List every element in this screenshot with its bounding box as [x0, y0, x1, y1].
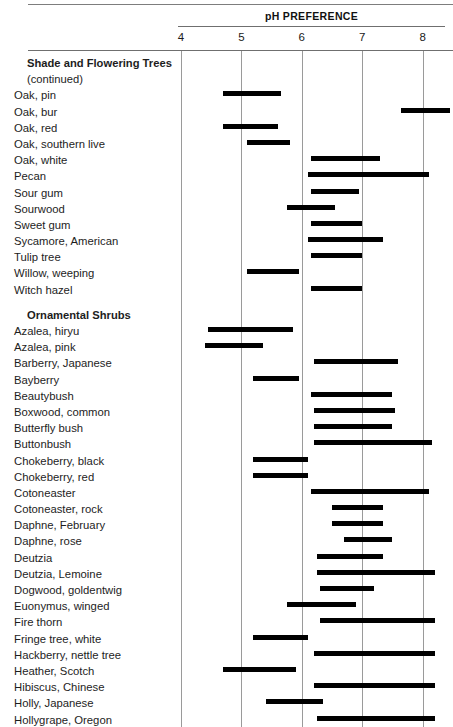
ph-range-bar: [311, 189, 359, 194]
chart-row: Oak, red: [0, 120, 453, 136]
ph-range-bar: [320, 618, 435, 623]
plant-name-label: Boxwood, common: [14, 405, 110, 419]
top-rule: [28, 4, 453, 5]
ph-range-bar: [287, 602, 356, 607]
plant-name-label: Oak, red: [14, 121, 57, 135]
plant-name-label: Cotoneaster: [14, 486, 76, 500]
plant-name-label: Daphne, February: [14, 518, 105, 532]
chart-row: Dogwood, goldentwig: [0, 582, 453, 598]
chart-row: Sour gum: [0, 185, 453, 201]
ph-range-bar: [253, 376, 298, 381]
chart-row: Azalea, pink: [0, 339, 453, 355]
plant-name-label: Azalea, pink: [14, 340, 76, 354]
plant-name-label: Hollygrape, Oregon: [14, 713, 112, 727]
ph-range-bar: [308, 237, 384, 242]
ph-range-bar: [205, 343, 262, 348]
chart-row: Fringe tree, white: [0, 631, 453, 647]
ph-range-bar: [253, 473, 307, 478]
ph-range-bar: [223, 91, 280, 96]
ph-range-bar: [314, 424, 393, 429]
ph-range-bar: [344, 537, 392, 542]
plant-name-label: Holly, Japanese: [14, 696, 94, 710]
ph-range-bar: [223, 124, 277, 129]
ph-range-bar: [287, 205, 335, 210]
ph-range-bar: [320, 586, 374, 591]
x-tick-label-7: 7: [350, 31, 374, 44]
chart-rows: Shade and Flowering Trees(continued)Oak,…: [0, 55, 453, 727]
chart-row: Oak, southern live: [0, 136, 453, 152]
plant-name-label: Oak, southern live: [14, 137, 105, 151]
section-heading-label: Shade and Flowering Trees: [27, 56, 172, 70]
plant-name-label: Cotoneaster, rock: [14, 502, 103, 516]
chart-row: Daphne, February: [0, 517, 453, 533]
x-tick-label-6: 6: [290, 31, 314, 44]
chart-row: Heather, Scotch: [0, 663, 453, 679]
chart-row: Deutzia, Lemoine: [0, 566, 453, 582]
ph-range-bar: [308, 172, 429, 177]
plant-name-label: Sycamore, American: [14, 234, 118, 248]
section-subheading: (continued): [0, 71, 453, 87]
ph-range-bar: [253, 457, 307, 462]
ph-range-bar: [208, 327, 293, 332]
chart-row: Cotoneaster: [0, 485, 453, 501]
ph-range-bar: [311, 221, 362, 226]
chart-row: Pecan: [0, 168, 453, 184]
plant-name-label: Chokeberry, black: [14, 454, 104, 468]
plant-name-label: Buttonbush: [14, 437, 71, 451]
chart-row: Sweet gum: [0, 217, 453, 233]
section-heading: Shade and Flowering Trees: [0, 55, 453, 71]
plant-name-label: Heather, Scotch: [14, 664, 94, 678]
ph-range-bar: [314, 408, 396, 413]
title-underline: [178, 26, 445, 27]
chart-title: pH PREFERENCE: [178, 10, 445, 23]
chart-row: Tulip tree: [0, 249, 453, 265]
plant-name-label: Deutzia, Lemoine: [14, 567, 102, 581]
chart-row: Chokeberry, black: [0, 453, 453, 469]
chart-row: Bayberry: [0, 372, 453, 388]
plant-name-label: Butterfly bush: [14, 421, 83, 435]
x-tick-label-5: 5: [229, 31, 253, 44]
plant-name-label: Oak, pin: [14, 88, 56, 102]
ph-range-bar: [317, 570, 435, 575]
plant-name-label: Chokeberry, red: [14, 470, 94, 484]
plant-name-label: Sour gum: [14, 186, 63, 200]
chart-row: Daphne, rose: [0, 533, 453, 549]
plant-name-label: Fringe tree, white: [14, 632, 101, 646]
plant-name-label: Beautybush: [14, 389, 74, 403]
plant-name-label: Hackberry, nettle tree: [14, 648, 121, 662]
chart-row: Euonymus, winged: [0, 598, 453, 614]
chart-row: Oak, pin: [0, 87, 453, 103]
x-tick-label-4: 4: [169, 31, 193, 44]
chart-row: Boxwood, common: [0, 404, 453, 420]
section-spacer: [0, 298, 453, 307]
ph-range-bar: [247, 269, 298, 274]
ph-range-bar: [253, 635, 307, 640]
ph-range-bar: [311, 253, 362, 258]
chart-row: Sycamore, American: [0, 233, 453, 249]
chart-row: Barberry, Japanese: [0, 355, 453, 371]
plant-name-label: Fire thorn: [14, 615, 62, 629]
plant-name-label: Willow, weeping: [14, 266, 94, 280]
plant-name-label: Deutzia: [14, 551, 52, 565]
ph-range-bar: [247, 140, 289, 145]
chart-row: Sourwood: [0, 201, 453, 217]
ph-range-bar: [314, 359, 399, 364]
chart-row: Oak, bur: [0, 104, 453, 120]
plant-name-label: Sourwood: [14, 202, 65, 216]
ph-range-bar: [223, 667, 295, 672]
chart-row: Deutzia: [0, 550, 453, 566]
ph-preference-chart: pH PREFERENCE 45678 Shade and Flowering …: [0, 0, 453, 727]
plant-name-label: Azalea, hiryu: [14, 324, 79, 338]
chart-row: Holly, Japanese: [0, 695, 453, 711]
chart-row: Cotoneaster, rock: [0, 501, 453, 517]
plant-name-label: Dogwood, goldentwig: [14, 583, 122, 597]
chart-row: Oak, white: [0, 152, 453, 168]
plant-name-label: Sweet gum: [14, 218, 71, 232]
chart-row: Chokeberry, red: [0, 469, 453, 485]
chart-row: Willow, weeping: [0, 265, 453, 281]
plant-name-label: Bayberry: [14, 373, 59, 387]
ph-range-bar: [317, 554, 383, 559]
chart-row: Hollygrape, Oregon: [0, 712, 453, 727]
plant-name-label: Euonymus, winged: [14, 599, 109, 613]
chart-row: Butterfly bush: [0, 420, 453, 436]
